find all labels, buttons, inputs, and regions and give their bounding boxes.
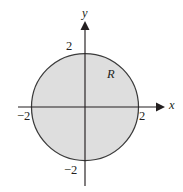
x-axis-arrowhead <box>156 103 165 112</box>
disk-region-figure: 2 −2 2 −2 y x R <box>0 0 183 192</box>
y-axis-arrowhead <box>81 21 90 30</box>
y-axis-label: y <box>82 7 88 20</box>
y-axis-tick-label-positive: 2 <box>66 40 72 53</box>
figure-canvas <box>0 0 183 192</box>
x-axis-tick-label-negative: −2 <box>17 110 30 123</box>
y-axis-tick-label-negative: −2 <box>64 164 77 177</box>
x-axis-tick-label-positive: 2 <box>139 110 145 123</box>
region-label-r: R <box>107 68 115 81</box>
x-axis-label: x <box>169 99 175 112</box>
